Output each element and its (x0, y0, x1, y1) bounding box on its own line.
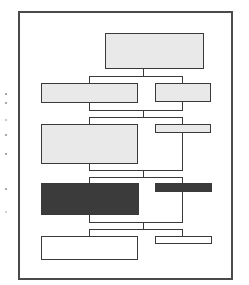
connector-stem (143, 69, 144, 76)
connector-stem (143, 170, 144, 177)
connector-bracket-bottom (89, 222, 183, 223)
margin-mark (5, 119, 7, 121)
node-l5-left (41, 236, 138, 260)
connector-stem (143, 222, 144, 229)
connector-bracket-top (89, 177, 183, 178)
connector-bracket-top (89, 117, 183, 118)
node-l5-right (155, 236, 212, 244)
margin-mark (5, 134, 7, 136)
margin-mark (5, 188, 7, 190)
margin-mark (5, 211, 7, 213)
margin-mark (5, 93, 7, 95)
node-l3-left (41, 124, 138, 164)
connector-bracket-top (89, 229, 183, 230)
node-l4-right (155, 183, 212, 192)
connector-left (89, 229, 90, 236)
node-l2-right (155, 83, 211, 102)
margin-mark (5, 102, 7, 104)
connector-right (182, 229, 183, 236)
connector-bracket-bottom (89, 170, 183, 171)
node-l2-left (41, 83, 138, 103)
connector-stem (143, 110, 144, 117)
node-l3-right (155, 124, 211, 133)
node-root (105, 33, 204, 69)
node-l4-left (41, 183, 139, 215)
margin-mark (5, 153, 7, 155)
connector-bracket-bottom (89, 110, 183, 111)
connector-bracket-top (89, 76, 183, 77)
